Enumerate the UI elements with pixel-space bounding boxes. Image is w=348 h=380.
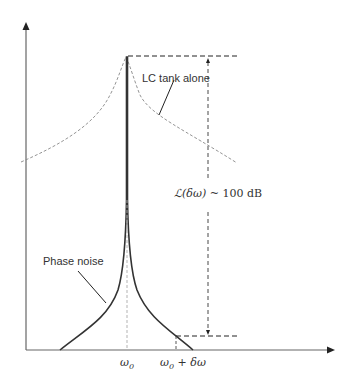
phase-noise-curve — [60, 57, 193, 350]
phase-noise-label: Phase noise — [43, 255, 104, 267]
offset-frequency-label: ω0 + δω — [160, 356, 206, 371]
arrow-down-icon — [206, 330, 210, 335]
arrow-up-icon — [206, 58, 210, 63]
y-axis-arrow-icon — [23, 22, 30, 30]
omega0-label: ω0 — [120, 356, 134, 371]
lc-tank-pointer — [159, 80, 174, 115]
x-axis-arrow-icon — [327, 347, 335, 354]
dynamic-range-rhs: ~ 100 dB — [206, 187, 262, 200]
lc-tank-label: LC tank alone — [142, 72, 210, 84]
dynamic-range-label: ℒ(δω) ~ 100 dB — [174, 187, 262, 200]
phase-noise-pointer — [78, 271, 106, 303]
dynamic-range-lhs: ℒ(δω) — [174, 187, 206, 200]
